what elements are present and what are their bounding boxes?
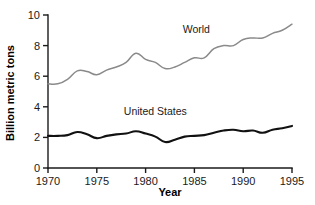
series-label-world: World (183, 23, 210, 35)
y-tick-label: 2 (34, 131, 40, 143)
y-tick-label: 0 (34, 162, 40, 174)
x-tick-label: 1970 (36, 175, 60, 187)
series-line-world (48, 24, 292, 84)
x-tick-label: 1985 (182, 175, 206, 187)
y-tick-label: 8 (34, 40, 40, 52)
x-tick-label: 1980 (133, 175, 157, 187)
line-chart-plot: 0246810 197019751980198519901995 WorldUn… (0, 0, 315, 205)
y-axis-title: Billion metric tons (4, 45, 16, 141)
chart-container: 0246810 197019751980198519901995 WorldUn… (0, 0, 315, 205)
tick-marks-group (43, 15, 292, 173)
y-axis-tick-labels: 0246810 (28, 9, 40, 174)
y-tick-label: 10 (28, 9, 40, 21)
x-tick-label: 1990 (231, 175, 255, 187)
x-tick-label: 1975 (85, 175, 109, 187)
y-tick-label: 6 (34, 70, 40, 82)
series-line-united-states (48, 126, 292, 142)
x-tick-label: 1995 (280, 175, 304, 187)
series-annotations-group: WorldUnited States (124, 23, 210, 118)
data-series-group (48, 24, 292, 142)
y-tick-label: 4 (34, 101, 40, 113)
series-label-united-states: United States (124, 105, 187, 117)
x-axis-title: Year (158, 186, 182, 198)
